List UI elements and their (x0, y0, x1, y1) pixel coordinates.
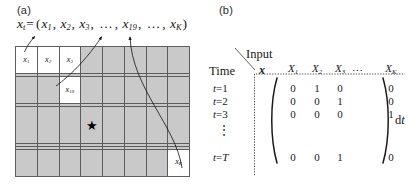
grid-cell (37, 149, 59, 176)
matrix-cell-r2cK: 0 (388, 95, 394, 107)
row-header-t3-val: 3 (222, 108, 228, 120)
grid-cell (81, 149, 103, 176)
equation-term-3: x3 (79, 16, 89, 31)
matrix-cell-rTc3: 1 (337, 151, 343, 163)
grid-cell (124, 149, 146, 176)
grid-cell-star: ★ (81, 107, 103, 144)
corner-symbol-x: x (259, 63, 265, 78)
grid-cell (37, 77, 59, 104)
matrix-left-bracket (272, 78, 277, 163)
dt-label-t: t (401, 113, 404, 127)
grid-cell (16, 107, 38, 144)
column-header-X2-var: X (312, 62, 319, 74)
row-header-tT: t=T (213, 151, 228, 163)
spatial-grid-table: x1 x2 x3 (15, 46, 190, 177)
matrix-cell-r1cK: 0 (388, 82, 394, 94)
grid-cell (168, 47, 190, 74)
grid-cell (124, 107, 146, 144)
grid-cell (103, 47, 125, 74)
matrix-cell-r2c3: 1 (337, 95, 343, 107)
grid-cell (59, 149, 81, 176)
matrix-cell-r1c2: 1 (314, 82, 320, 94)
vector-equation: xt=(x1, x2, x3, …, x19, …, xK) (17, 16, 188, 32)
row-header-t3: t=3 (213, 108, 228, 120)
panel-b: (b) Input Time x X1 X2 X3 ⋯ XK t=1 t=2 t… (209, 0, 418, 187)
grid-cell (103, 107, 125, 144)
column-header-ellipsis: ⋯ (352, 65, 364, 78)
equation-sep-4: , (114, 16, 119, 31)
equation-ellipsis-2: … (146, 16, 162, 31)
grid-row: x19 (16, 77, 190, 104)
equation-sep-1: , (52, 16, 57, 31)
column-header-X3-var: X (335, 62, 342, 74)
grid-cell-x3: x3 (59, 47, 81, 74)
matrix-cell-r1c3: 0 (337, 82, 343, 94)
column-header-XK-sub: K (392, 68, 397, 75)
matrix-cell-r3c1: 0 (290, 108, 296, 120)
grid-cell-x19-sub: 19 (69, 89, 74, 94)
grid-cell (103, 149, 125, 176)
row-header-t1: t=1 (213, 82, 228, 94)
input-label: Input (246, 47, 272, 62)
panel-b-label: (b) (219, 4, 233, 16)
grid-cell (146, 47, 168, 74)
dt-label: dt (395, 113, 405, 128)
grid-cell (124, 47, 146, 74)
column-header-X2-sub: 2 (319, 68, 322, 75)
column-header-X1-sub: 1 (295, 68, 298, 75)
grid-cell (59, 107, 81, 144)
grid-cell-x3-sub: 3 (70, 59, 72, 64)
grid-cell (168, 77, 190, 104)
column-header-X1: X1 (288, 62, 298, 75)
equation-equals: = (25, 16, 35, 31)
equation-sep-3: , (90, 16, 95, 31)
matrix-cell-r1c1: 0 (290, 82, 296, 94)
equation-term-2-sub: 2 (66, 23, 70, 32)
equation-sep-2: , (71, 16, 76, 31)
grid-cell-x1-sub: 1 (27, 59, 29, 64)
grid-cell (124, 77, 146, 104)
equation-term-1-sub: 1 (47, 23, 51, 32)
matrix-cell-r2c2: 0 (314, 95, 320, 107)
grid-cell (103, 77, 125, 104)
column-header-X1-var: X (288, 62, 295, 74)
row-header-t2: t=2 (213, 95, 228, 107)
grid-cell (146, 149, 168, 176)
figure-root: (a) xt=(x1, x2, x3, …, x19, …, xK) x1 x2… (0, 0, 418, 187)
matrix-cell-r3cK: 1 (388, 108, 394, 120)
grid-cell (146, 107, 168, 144)
matrix-cell-rTc2: 0 (314, 151, 320, 163)
column-header-X3-sub: 3 (342, 68, 345, 75)
equation-term-1: x1 (41, 16, 51, 31)
time-label: Time (209, 64, 235, 79)
row-header-t1-val: 1 (222, 82, 228, 94)
matrix-cell-rTc1: 0 (290, 151, 296, 163)
grid-row: x1 x2 x3 (16, 47, 190, 74)
row-header-tT-val: T (222, 151, 228, 163)
grid-cell (37, 107, 59, 144)
spatial-grid: x1 x2 x3 (15, 46, 190, 177)
equation-sep-6: , (161, 16, 166, 31)
grid-cell-x1: x1 (16, 47, 38, 74)
star-marker: ★ (86, 118, 98, 133)
grid-row: xK (16, 149, 190, 176)
grid-cell (81, 77, 103, 104)
grid-cell (168, 107, 190, 144)
grid-cell (81, 47, 103, 74)
grid-cell-x2-sub: 2 (49, 59, 51, 64)
matrix-cell-rTcK: 0 (388, 151, 394, 163)
panel-a: (a) xt=(x1, x2, x3, …, x19, …, xK) x1 x2… (0, 0, 209, 187)
equation-ellipsis-1: … (98, 16, 114, 31)
equation-term-19-sub: 19 (129, 23, 137, 32)
grid-cell (146, 77, 168, 104)
matrix-cell-r2c1: 0 (290, 95, 296, 107)
grid-cell-x19: x19 (59, 77, 81, 104)
equation-close-paren: ) (181, 16, 188, 31)
column-header-X3: X3 (335, 62, 345, 75)
grid-cell-xK: xK (168, 149, 190, 176)
column-header-XK: XK (385, 62, 396, 75)
grid-cell (16, 149, 38, 176)
matrix-cell-r3c3: 0 (337, 108, 343, 120)
equation-term-K: xK (170, 16, 182, 31)
equation-term-3-sub: 3 (85, 23, 89, 32)
